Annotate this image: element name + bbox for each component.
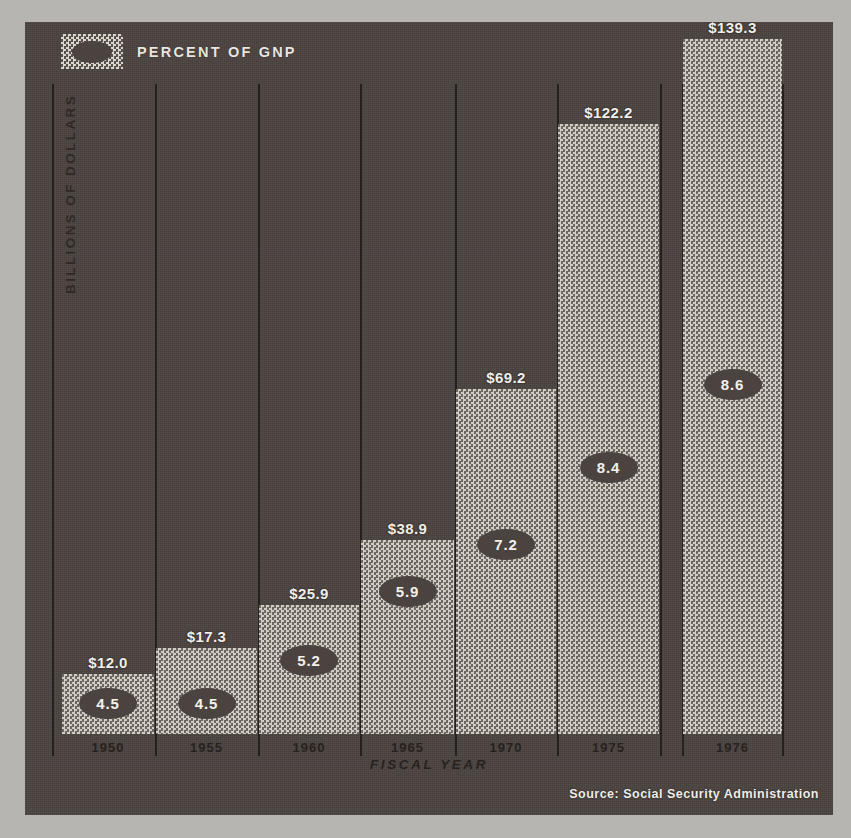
x-tick-1976: 1976 bbox=[683, 740, 782, 755]
x-tick-1975: 1975 bbox=[558, 740, 659, 755]
bar-1976: $139.3 8.6 bbox=[683, 39, 782, 734]
percent-oval-1960: 5.2 bbox=[280, 645, 338, 676]
x-tick-1955: 1955 bbox=[156, 740, 257, 755]
bar-value-1965: $38.9 bbox=[361, 520, 454, 537]
x-axis-label: FISCAL YEAR bbox=[25, 757, 833, 772]
percent-oval-1955: 4.5 bbox=[178, 688, 236, 719]
x-tick-1960: 1960 bbox=[259, 740, 359, 755]
percent-oval-1975: 8.4 bbox=[580, 452, 638, 483]
percent-oval-1976: 8.6 bbox=[704, 369, 762, 400]
plot-area: $12.0 4.5 $17.3 4.5 $25.9 5.2 $38.9 5.9 … bbox=[25, 22, 833, 815]
bar-value-1950: $12.0 bbox=[62, 654, 154, 671]
gridline bbox=[52, 84, 54, 756]
y-axis-label: BILLIONS OF DOLLARS bbox=[63, 94, 78, 294]
gridline bbox=[660, 84, 662, 756]
percent-oval-1965: 5.9 bbox=[379, 576, 437, 607]
x-tick-1965: 1965 bbox=[361, 740, 454, 755]
bar-1965: $38.9 5.9 bbox=[361, 540, 454, 734]
bar-value-1976: $139.3 bbox=[683, 22, 782, 36]
chart-page: PERCENT OF GNP $12.0 4.5 $17.3 4.5 bbox=[0, 0, 851, 838]
bar-value-1975: $122.2 bbox=[558, 104, 659, 121]
bar-1975: $122.2 8.4 bbox=[558, 124, 659, 734]
x-tick-1950: 1950 bbox=[62, 740, 154, 755]
bar-1970: $69.2 7.2 bbox=[456, 389, 556, 734]
bar-1955: $17.3 4.5 bbox=[156, 648, 257, 734]
x-tick-1970: 1970 bbox=[456, 740, 556, 755]
bar-1960: $25.9 5.2 bbox=[259, 605, 359, 734]
gridline bbox=[782, 84, 784, 756]
bar-value-1960: $25.9 bbox=[259, 585, 359, 602]
bar-1950: $12.0 4.5 bbox=[62, 674, 154, 734]
chart-panel: PERCENT OF GNP $12.0 4.5 $17.3 4.5 bbox=[25, 22, 833, 815]
source-credit: Source: Social Security Administration bbox=[569, 787, 819, 801]
bar-value-1970: $69.2 bbox=[456, 369, 556, 386]
percent-oval-1970: 7.2 bbox=[477, 529, 535, 560]
percent-oval-1950: 4.5 bbox=[79, 688, 137, 719]
bar-value-1955: $17.3 bbox=[156, 628, 257, 645]
